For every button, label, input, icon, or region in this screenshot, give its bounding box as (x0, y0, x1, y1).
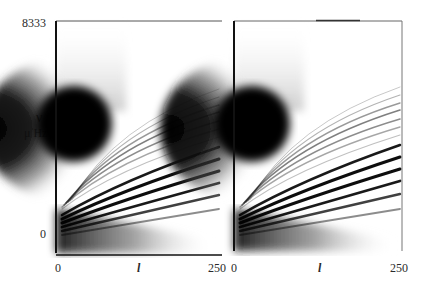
left-x-tick-0: 0 (55, 262, 61, 274)
right-x-tick-0: 0 (231, 262, 237, 274)
right-spectrum-panel (232, 19, 404, 253)
left-x-tick-250: 250 (208, 262, 226, 274)
y-tick-8333: 8333 (22, 17, 46, 29)
y-tick-0: 0 (40, 228, 46, 240)
right-x-axis-label-l: l (318, 262, 321, 274)
left-x-axis-label-l: l (137, 262, 140, 274)
right-x-tick-250: 250 (390, 262, 408, 274)
